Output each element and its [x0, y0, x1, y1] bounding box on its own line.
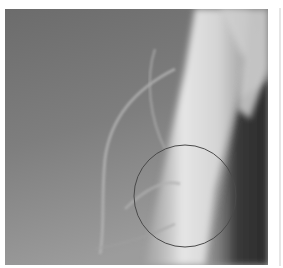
radiograph-svg — [5, 9, 268, 265]
adjacent-panel-edge — [279, 8, 281, 266]
radiograph-image — [5, 9, 268, 265]
